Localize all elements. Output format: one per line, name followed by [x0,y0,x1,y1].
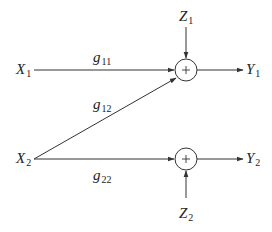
input-x2-base: X [16,150,25,166]
summer-node-1 [175,59,197,81]
edge-x2-to-sum1 [34,78,176,159]
output-y2-sub: 2 [255,157,260,168]
noise-z1-sub: 1 [188,15,193,26]
gain-g12-sub: 12 [102,103,112,114]
noise-z1-base: Z [179,8,187,24]
noise-label-z2: Z2 [179,206,193,223]
output-label-y2: Y2 [246,151,260,168]
diagram-canvas [0,0,272,232]
input-x1-base: X [16,61,25,77]
output-y1-base: Y [246,61,254,77]
input-label-x1: X1 [16,62,31,79]
gain-g12-base: g [93,96,101,112]
noise-z2-sub: 2 [188,212,193,223]
gain-label-g12: g12 [93,97,112,114]
output-y1-sub: 1 [255,68,260,79]
output-label-y1: Y1 [246,62,260,79]
input-label-x2: X2 [16,151,31,168]
gain-g11-base: g [93,49,101,65]
gain-g22-sub: 22 [102,174,112,185]
interference-channel-diagram: X1 X2 Y1 Y2 Z1 Z2 g11 g12 g22 [0,0,272,232]
input-x2-sub: 2 [26,157,31,168]
output-y2-base: Y [246,150,254,166]
gain-label-g11: g11 [93,50,111,67]
noise-label-z1: Z1 [179,9,193,26]
gain-label-g22: g22 [93,168,112,185]
summer-node-2 [175,148,197,170]
noise-z2-base: Z [179,205,187,221]
input-x1-sub: 1 [26,68,31,79]
gain-g22-base: g [93,167,101,183]
gain-g11-sub: 11 [102,56,112,67]
